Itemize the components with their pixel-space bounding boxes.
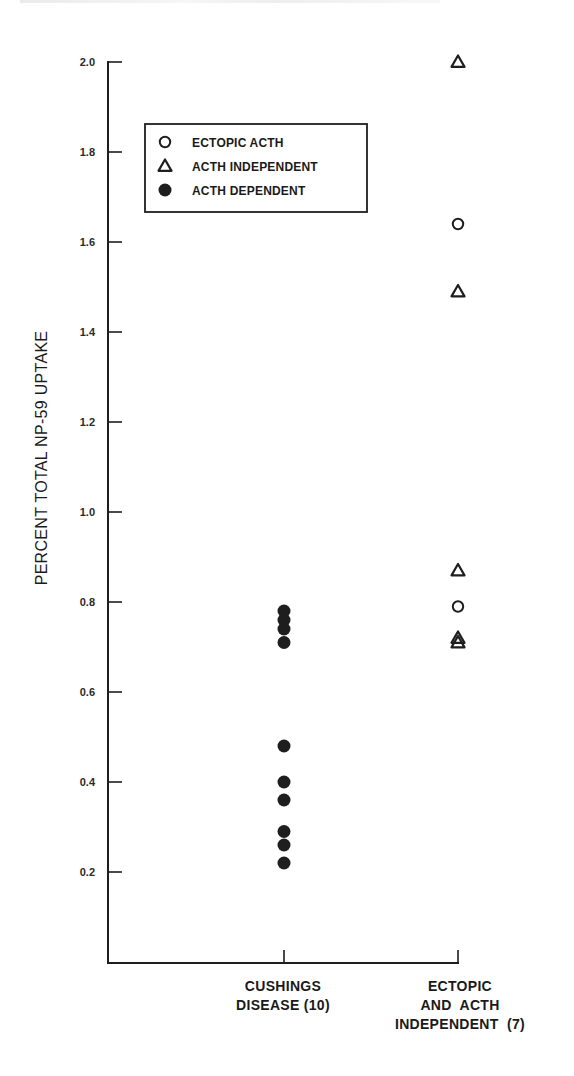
y-tick-label: 0.8: [80, 596, 95, 608]
y-tick-label: 0.4: [80, 776, 96, 788]
y-tick-label: 0.2: [80, 866, 95, 878]
data-point-open-circle: [453, 601, 463, 611]
data-point-filled-circle: [278, 636, 291, 649]
y-tick-label: 2.0: [80, 56, 95, 68]
y-tick-label: 1.4: [80, 326, 96, 338]
y-tick-label: 1.2: [80, 416, 95, 428]
x-axis-category-labels: CUSHINGSDISEASE (10)ECTOPICAND ACTHINDEP…: [236, 978, 525, 1032]
data-point-filled-circle: [278, 857, 291, 870]
category-label: INDEPENDENT (7): [395, 1016, 525, 1032]
y-axis-title: PERCENT TOTAL NP-59 UPTAKE: [33, 331, 50, 586]
y-axis-ticks: 0.20.40.60.81.01.21.41.61.82.0: [80, 56, 122, 878]
y-tick-label: 1.6: [80, 236, 95, 248]
category-label: ECTOPIC: [428, 978, 492, 994]
legend: ECTOPIC ACTHACTH INDEPENDENTACTH DEPENDE…: [145, 124, 367, 212]
legend-label: ACTH INDEPENDENT: [192, 160, 318, 174]
data-point-open-triangle: [452, 285, 465, 296]
data-point-open-triangle: [452, 564, 465, 575]
category-label: CUSHINGS: [245, 978, 321, 994]
data-point-filled-circle: [278, 776, 291, 789]
data-point-filled-circle: [278, 825, 291, 838]
data-point-filled-circle: [278, 839, 291, 852]
data-point-open-triangle: [452, 56, 465, 67]
legend-label: ECTOPIC ACTH: [192, 136, 284, 150]
data-point-filled-circle: [278, 740, 291, 753]
category-label: DISEASE (10): [236, 997, 330, 1013]
legend-label: ACTH DEPENDENT: [192, 184, 306, 198]
category-label: AND ACTH: [420, 997, 499, 1013]
y-tick-label: 1.8: [80, 146, 95, 158]
y-tick-label: 0.6: [80, 686, 95, 698]
data-point-open-circle: [453, 219, 463, 229]
scatter-chart: 0.20.40.60.81.01.21.41.61.82.0 ECTOPIC A…: [0, 0, 574, 1076]
data-point-filled-circle: [278, 794, 291, 807]
y-tick-label: 1.0: [80, 506, 95, 518]
data-point-filled-circle: [278, 623, 291, 636]
legend-marker-filled-circle: [159, 184, 172, 197]
